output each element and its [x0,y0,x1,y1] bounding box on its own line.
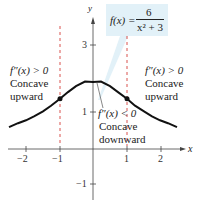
formula-denominator: x² + 3 [137,21,163,33]
y-axis-arrow-icon [91,17,95,24]
formula-pointer [98,36,128,100]
annotation-right-condition: f″(x) > 0 [145,64,183,76]
x-tick-neg1: −1 [52,153,63,164]
x-tick-1: 1 [124,153,129,164]
y-axis-label: y [88,2,92,14]
x-tick-neg2: −2 [17,153,28,164]
y-tick-1: 1 [82,106,87,117]
annotation-right-line3: upward [145,90,178,102]
formula-box: f(x) = 6 x² + 3 [106,4,168,36]
formula-numerator: 6 [146,6,152,18]
annotation-middle-line3: downward [99,133,145,145]
middle-label-leader [97,83,103,108]
annotation-right-line2: Concave [145,77,183,89]
formula-lhs: f(x) = [110,14,135,26]
plot-area [0,0,207,212]
annotation-left-line2: Concave [10,77,48,89]
annotation-left-line3: upward [10,90,43,102]
fraction-bar [136,19,164,20]
x-axis-arrow-icon [180,147,186,151]
inflection-point-right [125,96,130,101]
inflection-point-left [58,96,63,101]
y-tick-neg1: −1 [76,178,87,189]
y-tick-3: 3 [82,39,87,50]
x-tick-2: 2 [158,153,163,164]
x-axis-label: x [188,143,192,155]
annotation-middle-line2: Concave [99,120,137,132]
annotation-middle-condition: f″(x) < 0 [98,107,136,119]
annotation-left-condition: f″(x) > 0 [10,64,48,76]
